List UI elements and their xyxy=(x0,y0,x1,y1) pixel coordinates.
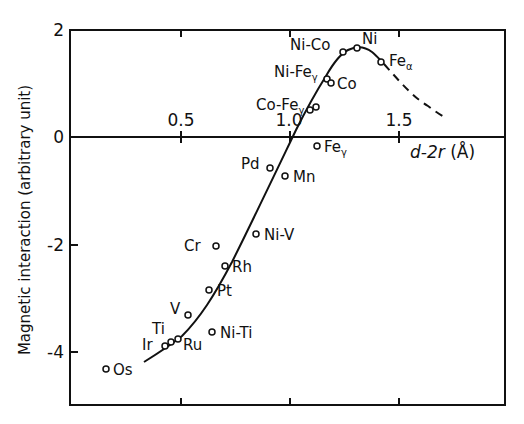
label-v: V xyxy=(170,300,181,318)
label-pd: Pd xyxy=(241,155,260,173)
point-ir xyxy=(162,343,168,349)
label-rh: Rh xyxy=(232,258,252,276)
label-ni-v: Ni-V xyxy=(264,226,295,244)
point-ti xyxy=(168,339,174,345)
point-pd xyxy=(267,165,273,171)
label-ni-fe-gamma: Ni-Feγ xyxy=(274,63,318,83)
y-tick-label-2: 2 xyxy=(53,20,64,40)
label-ir: Ir xyxy=(142,336,153,354)
label-cr: Cr xyxy=(184,237,201,255)
data-points xyxy=(103,45,384,372)
point-fe-alpha xyxy=(378,59,384,65)
point-fe-gamma xyxy=(314,143,320,149)
label-ni-ti: Ni-Ti xyxy=(220,324,252,342)
y-axis-title: Magnetic interaction (arbitrary unit) xyxy=(16,85,34,355)
point-co-fe-gamma-2 xyxy=(307,107,313,113)
y-ticks xyxy=(70,245,78,352)
point-ru xyxy=(175,336,181,342)
label-fe-alpha: Feα xyxy=(389,52,413,72)
plot-frame xyxy=(70,30,505,405)
x-tick-label-1.5: 1.5 xyxy=(385,110,412,130)
label-fe-gamma: Feγ xyxy=(324,138,347,158)
label-pt: Pt xyxy=(217,282,232,300)
label-co-fe-gamma: Co-Feγ xyxy=(256,96,304,116)
point-ni-v xyxy=(253,231,259,237)
label-mn: Mn xyxy=(293,168,315,186)
label-ru: Ru xyxy=(183,336,202,354)
point-ni-ti xyxy=(209,329,215,335)
point-ni-co xyxy=(340,49,346,55)
point-co-fe-gamma xyxy=(313,104,319,110)
point-rh xyxy=(222,263,228,269)
label-ni-co: Ni-Co xyxy=(290,36,330,54)
y-tick-label-0: 0 xyxy=(53,127,64,147)
x-tick-label-0.5: 0.5 xyxy=(167,110,194,130)
magnetic-interaction-chart: 2 0 -2 -4 0.5 1.0 1.5 Magnetic interacti… xyxy=(0,0,524,424)
point-ni xyxy=(354,45,360,51)
point-v xyxy=(185,312,191,318)
point-pt xyxy=(206,287,212,293)
point-co xyxy=(328,80,334,86)
point-cr xyxy=(213,243,219,249)
label-co: Co xyxy=(337,75,357,93)
y-tick-label-minus4: -4 xyxy=(47,342,64,362)
label-ti: Ti xyxy=(151,320,165,338)
label-ni: Ni xyxy=(362,30,377,48)
x-axis-title: d-2r (Å) xyxy=(410,141,475,162)
x-ticks-bottom xyxy=(181,398,399,405)
point-os xyxy=(103,366,109,372)
point-mn xyxy=(282,173,288,179)
y-tick-label-minus2: -2 xyxy=(47,235,64,255)
label-os: Os xyxy=(113,361,133,379)
